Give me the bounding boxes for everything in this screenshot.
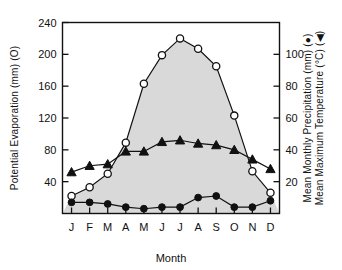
left-tick-label: 80: [44, 144, 56, 156]
left-tick-label: 240: [38, 17, 56, 29]
data-point-open-circle: [213, 63, 220, 70]
left-tick-label: 120: [38, 112, 56, 124]
data-point-open-circle: [104, 170, 111, 177]
data-point-filled-circle: [231, 204, 238, 211]
data-point-open-circle: [267, 189, 274, 196]
x-tick-label: A: [122, 221, 130, 233]
x-tick-label: M: [103, 221, 112, 233]
x-tick-label: N: [248, 221, 256, 233]
data-point-open-circle: [86, 184, 93, 191]
data-point-open-circle: [231, 112, 238, 119]
data-point-filled-circle: [104, 201, 111, 208]
data-point-open-circle: [176, 35, 183, 42]
x-tick-label: J: [69, 221, 75, 233]
left-axis: 4080120160200240: [38, 17, 68, 188]
data-point-filled-circle: [195, 194, 202, 201]
right-tick-label: 80: [286, 80, 298, 92]
data-point-filled-circle: [140, 205, 147, 212]
x-tick-label: M: [139, 221, 148, 233]
right-tick-label: 60: [286, 112, 298, 124]
right-axis-title-temperature: Mean Maximum Temperature (°C) (◀): [314, 31, 325, 206]
right-tick-label: 20: [286, 176, 298, 188]
data-point-filled-triangle: [67, 168, 76, 176]
data-point-filled-triangle: [248, 155, 257, 163]
data-point-filled-circle: [177, 204, 184, 211]
x-tick-label: J: [159, 221, 165, 233]
left-tick-label: 160: [38, 80, 56, 92]
data-point-filled-circle: [267, 197, 274, 204]
left-tick-label: 40: [44, 176, 56, 188]
x-tick-label: D: [266, 221, 274, 233]
data-point-filled-circle: [159, 204, 166, 211]
left-axis-title: Potential Evaporation (mm) (O): [9, 46, 20, 190]
data-point-open-circle: [158, 52, 165, 59]
left-tick-label: 200: [38, 48, 56, 60]
x-tick-label: J: [177, 221, 183, 233]
x-axis-title: Month: [156, 252, 187, 264]
data-point-open-circle: [140, 80, 147, 87]
data-point-filled-circle: [213, 193, 220, 200]
figure-container: 4080120160200240 20406080100 JFMAMJJASON…: [0, 0, 342, 270]
data-point-filled-triangle: [266, 164, 275, 172]
x-tick-label: O: [230, 221, 239, 233]
x-tick-label: F: [86, 221, 93, 233]
evaporation-shaded-area: [63, 38, 280, 213]
data-point-filled-triangle: [103, 160, 112, 168]
line-chart: 4080120160200240 20406080100 JFMAMJJASON…: [0, 0, 342, 270]
data-point-open-circle: [122, 139, 129, 146]
data-point-filled-circle: [249, 204, 256, 211]
right-axis-title-precipitation: Mean Monthly Precipitation (mm) (●): [302, 33, 313, 202]
data-point-filled-circle: [86, 199, 93, 206]
data-point-open-circle: [195, 45, 202, 52]
data-point-open-circle: [249, 168, 256, 175]
x-tick-label: A: [194, 221, 202, 233]
x-tick-label: S: [213, 221, 220, 233]
data-point-filled-circle: [68, 199, 75, 206]
right-tick-label: 40: [286, 144, 298, 156]
right-axis: 20406080100: [274, 48, 304, 187]
data-point-filled-circle: [122, 204, 129, 211]
